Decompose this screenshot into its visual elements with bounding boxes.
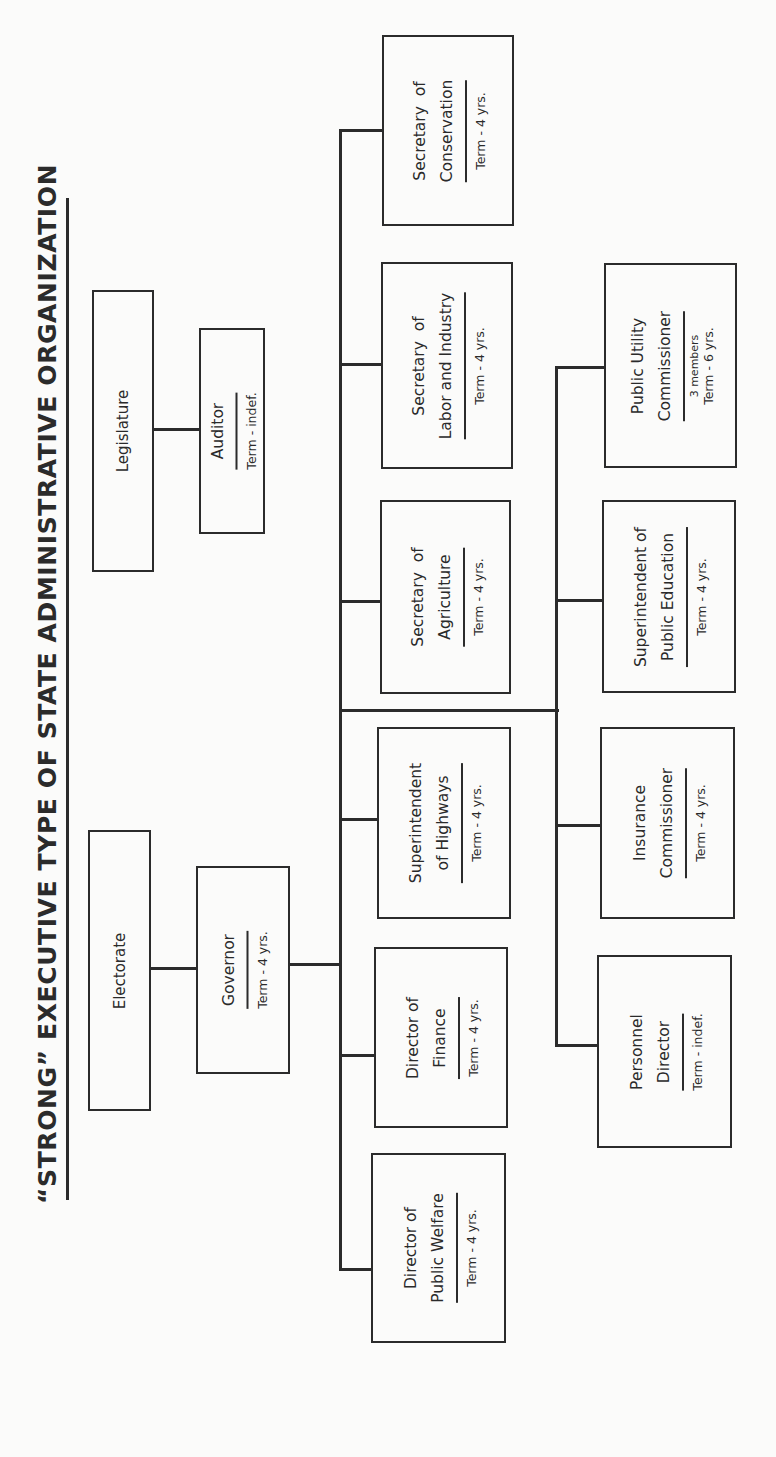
node-name: Superintendent bbox=[403, 763, 430, 883]
node-name: of Highways bbox=[430, 776, 457, 871]
node-auditor[interactable]: Auditor Term - indef. bbox=[199, 328, 265, 534]
node-term: Term - 4 yrs. bbox=[693, 784, 709, 862]
node-name: Public Welfare bbox=[425, 1193, 452, 1303]
connector-lower-trunk bbox=[555, 366, 558, 1046]
node-name: Finance bbox=[427, 1008, 454, 1067]
connector-agriculture bbox=[339, 600, 381, 603]
node-electorate[interactable]: Electorate bbox=[88, 830, 151, 1111]
divider bbox=[464, 292, 466, 439]
node-term: Term - 6 yrs. bbox=[701, 327, 717, 405]
node-labor[interactable]: Secretary of Labor and Industry Term - 4… bbox=[381, 262, 513, 469]
node-finance[interactable]: Director of Finance Term - 4 yrs. bbox=[374, 947, 508, 1128]
connector-governor-trunk bbox=[288, 963, 342, 966]
node-name: Governor bbox=[216, 934, 243, 1006]
divider bbox=[247, 931, 249, 1009]
node-highways[interactable]: Superintendent of Highways Term - 4 yrs. bbox=[377, 727, 511, 919]
divider bbox=[461, 763, 463, 883]
node-public-utility-commissioner[interactable]: Public Utility Commissioner 3 members Te… bbox=[604, 263, 737, 468]
connector-electorate-governor bbox=[150, 967, 197, 970]
node-term: Term - 4 yrs. bbox=[255, 931, 271, 1009]
node-governor[interactable]: Governor Term - 4 yrs. bbox=[196, 866, 290, 1074]
connector-labor bbox=[339, 363, 382, 366]
node-name: Legislature bbox=[110, 390, 137, 473]
node-name: Secretary of bbox=[407, 81, 434, 180]
node-term: Term - indef. bbox=[690, 1013, 706, 1090]
node-legislature[interactable]: Legislature bbox=[92, 290, 154, 572]
node-term: Term - 4 yrs. bbox=[471, 558, 487, 636]
node-term: Term - 4 yrs. bbox=[694, 558, 710, 636]
node-term: Term - 4 yrs. bbox=[469, 784, 485, 862]
node-name: Personnel bbox=[624, 1014, 651, 1090]
node-name: Secretary of bbox=[406, 316, 433, 415]
node-term: Term - indef. bbox=[244, 392, 260, 469]
divider bbox=[686, 526, 688, 666]
node-name: Insurance bbox=[627, 785, 654, 861]
node-name: Agriculture bbox=[432, 554, 459, 639]
node-conservation[interactable]: Secretary of Conservation Term - 4 yrs. bbox=[382, 35, 514, 226]
node-insurance[interactable]: Insurance Commissioner Term - 4 yrs. bbox=[600, 727, 735, 919]
node-term: Term - 4 yrs. bbox=[473, 92, 489, 170]
divider bbox=[236, 392, 238, 469]
connector-legislature-auditor bbox=[153, 428, 201, 431]
node-name: Labor and Industry bbox=[433, 292, 460, 439]
node-name: Superintendent of bbox=[628, 526, 655, 666]
node-members: 3 members bbox=[688, 334, 701, 397]
node-education[interactable]: Superintendent of Public Education Term … bbox=[602, 500, 736, 693]
divider bbox=[456, 1193, 458, 1303]
divider bbox=[458, 996, 460, 1078]
node-personnel[interactable]: Personnel Director Term - indef. bbox=[597, 955, 732, 1148]
node-name: Commissioner bbox=[652, 310, 679, 420]
node-name: Commissioner bbox=[654, 768, 681, 878]
node-term: Term - 4 yrs. bbox=[464, 1209, 480, 1287]
connector-insurance bbox=[555, 824, 601, 827]
node-name: Auditor bbox=[205, 403, 232, 460]
node-agriculture[interactable]: Secretary of Agriculture Term - 4 yrs. bbox=[380, 500, 511, 694]
divider bbox=[685, 768, 687, 878]
divider bbox=[463, 547, 465, 646]
connector-crossbar bbox=[339, 709, 559, 712]
node-term: Term - 4 yrs. bbox=[466, 999, 482, 1077]
divider bbox=[682, 1013, 684, 1090]
connector-education bbox=[555, 599, 603, 602]
title-underline bbox=[66, 198, 69, 1200]
divider bbox=[465, 79, 467, 181]
connector-personnel bbox=[555, 1044, 598, 1047]
connector-conservation bbox=[339, 129, 383, 132]
connector-highways bbox=[339, 818, 379, 821]
chart-title: “STRONG” EXECUTIVE TYPE OF STATE ADMINIS… bbox=[28, 194, 68, 1204]
node-name: Electorate bbox=[106, 932, 133, 1009]
connector-puc bbox=[555, 366, 605, 369]
connector-upper-trunk bbox=[339, 129, 342, 1270]
node-name: Public Education bbox=[655, 533, 682, 661]
connector-welfare bbox=[339, 1268, 372, 1271]
node-name: Director of bbox=[400, 996, 427, 1078]
node-name: Secretary of bbox=[405, 547, 432, 646]
node-term: Term - 4 yrs. bbox=[472, 327, 488, 405]
node-name: Public Utility bbox=[625, 317, 652, 413]
divider bbox=[683, 310, 685, 420]
node-welfare[interactable]: Director of Public Welfare Term - 4 yrs. bbox=[371, 1153, 506, 1343]
connector-finance bbox=[339, 1054, 375, 1057]
node-name: Conservation bbox=[434, 79, 461, 181]
node-name: Director of bbox=[398, 1207, 425, 1289]
node-name: Director bbox=[651, 1020, 678, 1082]
